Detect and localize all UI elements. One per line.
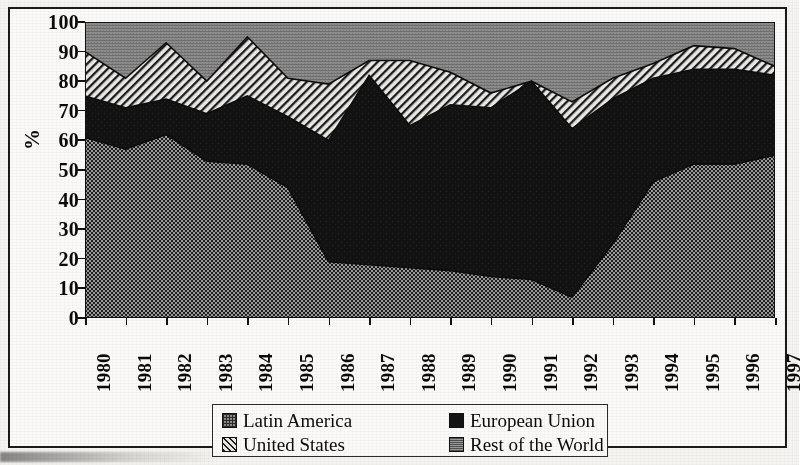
y-axis-tick-mark	[78, 228, 85, 230]
x-axis-tick-label: 1984	[255, 353, 277, 392]
x-axis-tick-label: 1987	[377, 353, 399, 392]
x-axis-tick-label: 1990	[499, 353, 521, 392]
x-axis-tick-mark	[491, 318, 493, 325]
x-axis-tick-mark	[694, 318, 696, 325]
y-axis-tick-mark	[78, 110, 85, 112]
y-axis-tick-mark	[78, 199, 85, 201]
y-axis-title: %	[20, 129, 45, 150]
x-axis-tick-label: 1981	[134, 353, 156, 392]
legend-label: European Union	[470, 411, 595, 430]
united-states-swatch-icon	[222, 437, 237, 452]
x-axis-tick-mark	[329, 318, 331, 325]
y-axis-tick-mark	[78, 258, 85, 260]
y-axis-tick-mark	[78, 21, 85, 23]
y-axis-tick-label: 70	[33, 101, 79, 121]
legend-label: United States	[243, 435, 345, 454]
y-axis-tick-label: 30	[33, 219, 79, 239]
legend-label: Latin America	[243, 411, 352, 430]
y-axis-tick-label: 20	[33, 249, 79, 269]
rest-of-the-world-swatch-icon	[449, 437, 464, 452]
x-axis-tick-label: 1991	[540, 353, 562, 392]
legend-item-united-states: United States	[222, 432, 345, 456]
y-axis-tick-label: 40	[33, 190, 79, 210]
y-axis-tick-mark	[78, 51, 85, 53]
x-axis-tick-mark	[653, 318, 655, 325]
chart-legend: Latin America European Union United Stat…	[212, 404, 608, 457]
legend-item-latin-america: Latin America	[222, 408, 352, 432]
european-union-swatch-icon	[449, 413, 464, 428]
x-axis: 1980198119821983198419851986198719881989…	[85, 318, 775, 404]
y-axis-tick-label: 90	[33, 42, 79, 62]
y-axis-tick-mark	[78, 80, 85, 82]
x-axis-tick-label: 1986	[337, 353, 359, 392]
y-axis-tick-mark	[78, 169, 85, 171]
plot-area	[85, 22, 775, 318]
x-axis-tick-label: 1982	[174, 353, 196, 392]
x-axis-tick-label: 1989	[458, 353, 480, 392]
y-axis-tick-mark	[78, 287, 85, 289]
y-axis-tick-mark	[78, 139, 85, 141]
x-axis-tick-label: 1993	[621, 353, 643, 392]
x-axis-tick-label: 1985	[296, 353, 318, 392]
y-axis-tick-label: 10	[33, 278, 79, 298]
x-axis-tick-label: 1980	[93, 353, 115, 392]
x-axis-tick-mark	[166, 318, 168, 325]
y-axis-tick-label: 80	[33, 71, 79, 91]
x-axis-tick-mark	[207, 318, 209, 325]
x-axis-tick-label: 1994	[661, 353, 683, 392]
x-axis-tick-mark	[532, 318, 534, 325]
x-axis-tick-label: 1997	[783, 353, 804, 392]
x-axis-tick-mark	[247, 318, 249, 325]
x-axis-tick-mark	[613, 318, 615, 325]
x-axis-tick-label: 1995	[702, 353, 724, 392]
y-axis: 1009080706050403020100	[27, 12, 79, 328]
y-axis-tick-label: 100	[33, 12, 79, 32]
x-axis-tick-mark	[126, 318, 128, 325]
x-axis-tick-mark	[410, 318, 412, 325]
y-axis-tick-label: 50	[33, 160, 79, 180]
x-axis-tick-mark	[85, 318, 87, 325]
plot-border	[85, 22, 775, 318]
x-axis-tick-label: 1988	[418, 353, 440, 392]
legend-item-rest-of-the-world: Rest of the World	[449, 432, 604, 456]
x-axis-tick-label: 1992	[580, 353, 602, 392]
latin-america-swatch-icon	[222, 413, 237, 428]
x-axis-tick-mark	[450, 318, 452, 325]
x-axis-tick-mark	[734, 318, 736, 325]
x-axis-tick-label: 1983	[215, 353, 237, 392]
y-axis-tick-mark	[78, 317, 85, 319]
y-axis-tick-label: 0	[33, 308, 79, 328]
legend-label: Rest of the World	[470, 435, 604, 454]
x-axis-tick-mark	[288, 318, 290, 325]
x-axis-tick-mark	[369, 318, 371, 325]
x-axis-tick-label: 1996	[742, 353, 764, 392]
x-axis-tick-mark	[775, 318, 777, 325]
x-axis-tick-mark	[572, 318, 574, 325]
legend-item-european-union: European Union	[449, 408, 595, 432]
